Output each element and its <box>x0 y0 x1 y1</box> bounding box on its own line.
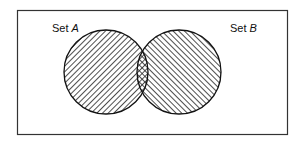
set-a-label: Set A <box>52 22 79 34</box>
venn-diagram: Set A Set B <box>0 0 303 142</box>
set-b-label: Set B <box>230 22 257 34</box>
